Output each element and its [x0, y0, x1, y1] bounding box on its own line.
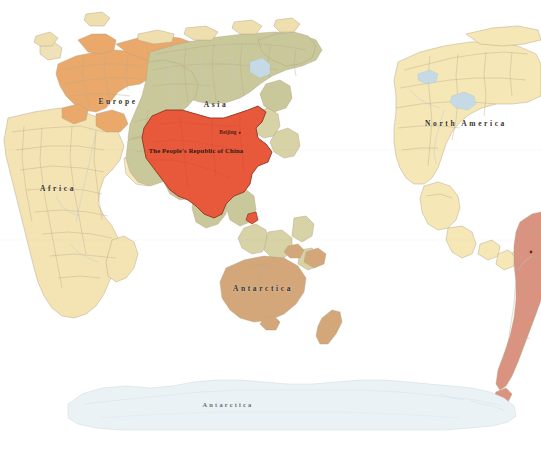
world-map: .land { stroke:#b3a185; stroke-width:0.4… [0, 0, 541, 461]
region-antarctica [68, 380, 516, 430]
map-canvas: .land { stroke:#b3a185; stroke-width:0.4… [0, 0, 541, 461]
